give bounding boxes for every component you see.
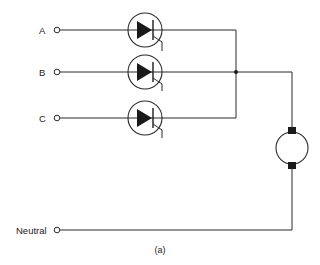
thyristor-c-icon [128,101,162,138]
phase-a-branch: A [39,13,236,51]
junction-dot [234,70,238,74]
terminal-neutral [54,227,60,233]
label-phase-b: B [39,67,45,78]
phase-b-branch: B [39,55,292,91]
label-phase-a: A [39,25,46,36]
terminal-b [54,69,60,75]
label-neutral: Neutral [16,225,47,236]
dc-motor-icon [276,127,308,169]
thyristor-b-icon [128,55,162,91]
thyristor-a-icon [128,13,162,51]
phase-c-branch: C [39,101,236,138]
neutral-branch: Neutral [16,225,292,236]
terminal-c [54,115,60,121]
terminal-a [54,27,60,33]
label-phase-c: C [39,113,46,124]
figure-caption: (a) [155,245,166,255]
circuit-diagram: A B C [0,0,320,265]
